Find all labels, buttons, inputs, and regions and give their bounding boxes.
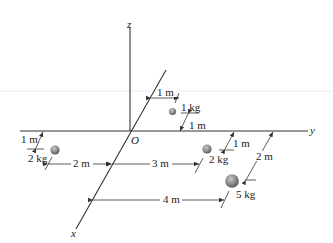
sphere-icon bbox=[50, 145, 59, 154]
mass-label: 1 kg bbox=[181, 101, 201, 113]
y-axis-label: y bbox=[309, 124, 315, 136]
dimension-label: 4 m bbox=[163, 193, 180, 205]
dimension-label: 2 m bbox=[256, 150, 273, 162]
diagram-svg: z y x O 1 kg 1 m 1 m 2 kg 1 m 2 m 2 kg 1… bbox=[0, 0, 333, 243]
dimension-label: 1 m bbox=[21, 133, 38, 145]
mass-label: 5 kg bbox=[236, 188, 256, 200]
x-axis-label: x bbox=[70, 227, 76, 239]
sphere-icon bbox=[225, 174, 239, 188]
mass-1kg: 1 kg 1 m 1 m bbox=[151, 86, 206, 131]
origin-label: O bbox=[131, 134, 139, 146]
dimension-label: 3 m bbox=[152, 157, 169, 169]
mass-label: 2 kg bbox=[209, 153, 229, 165]
diagram-canvas: z y x O 1 kg 1 m 1 m 2 kg 1 m 2 m 2 kg 1… bbox=[0, 0, 333, 243]
mass-2kg-left: 2 kg 1 m 2 m bbox=[21, 132, 111, 170]
sphere-icon bbox=[169, 108, 176, 115]
mass-label: 2 kg bbox=[28, 152, 48, 164]
x-axis bbox=[76, 70, 166, 229]
dimension-label: 2 m bbox=[73, 157, 90, 169]
z-axis-label: z bbox=[126, 18, 132, 30]
dimension-label: 1 m bbox=[157, 86, 174, 98]
dimension-label: 1 m bbox=[189, 119, 206, 131]
dimension-arrow bbox=[180, 114, 188, 131]
dimension-label: 1 m bbox=[233, 137, 250, 149]
